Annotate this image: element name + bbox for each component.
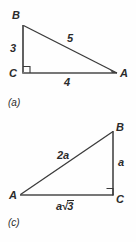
vertex-label-a-figure-c: A (9, 190, 17, 201)
side-label-vertical-leg-figure-c: a (118, 157, 124, 168)
caption-figure-c: (c) (8, 218, 20, 228)
figure-page: B C A 3 5 4 (a) B C A 2a a a√3 (c) (0, 0, 136, 242)
vertex-label-b-figure-c: B (116, 122, 124, 133)
figure-c: B C A 2a a a√3 (c) (0, 0, 136, 242)
side-label-horizontal-leg-figure-c: a√3 (56, 200, 74, 213)
segment-ab-c (21, 132, 114, 195)
vertex-label-c-figure-c: C (116, 194, 124, 205)
radicand: 3 (67, 200, 74, 213)
square-root-icon: √3 (62, 200, 74, 213)
side-label-hypotenuse-figure-c: 2a (57, 150, 69, 161)
